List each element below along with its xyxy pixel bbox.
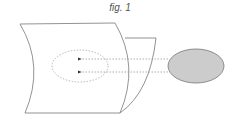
diagram-canvas <box>0 0 240 127</box>
front-curved-sheet <box>20 23 129 113</box>
source-ellipse <box>168 49 224 83</box>
